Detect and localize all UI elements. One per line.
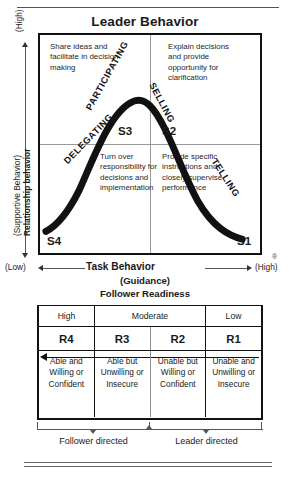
top-divider-rule — [17, 7, 279, 8]
brace-tick-middle-icon — [146, 425, 152, 429]
x-axis-low-label: (Low) — [5, 262, 26, 272]
brace-tick-follower-icon — [90, 430, 96, 434]
page-title: Leader Behavior — [0, 14, 290, 29]
x-axis-row: (Low) Task Behavior (High) — [0, 261, 290, 275]
registered-trademark-mark: ® — [272, 253, 277, 260]
readiness-code-r1: R1 — [206, 327, 261, 350]
y-axis-label-relationship: Relationship behavior — [22, 149, 32, 237]
x-axis-left-line — [43, 268, 85, 269]
quadrant-label-s2: S2 — [162, 125, 176, 137]
bell-curve-icon — [40, 35, 260, 253]
readiness-description-row: Able and Willing or Confident Able but U… — [39, 351, 261, 417]
x-axis-right-line — [205, 268, 247, 269]
x-axis-right-arrow-icon — [247, 265, 252, 271]
readiness-header-low: Low — [206, 306, 261, 326]
brace-tick-leader-icon — [203, 430, 209, 434]
readiness-code-r4: R4 — [39, 327, 95, 350]
y-axis-high-label: (High) — [14, 9, 24, 32]
bottom-divider-rule-2 — [24, 466, 272, 467]
quadrant-label-s1: S1 — [237, 235, 251, 247]
follower-readiness-title: Follower Readiness — [0, 288, 290, 299]
x-axis-title: Task Behavior — [86, 261, 155, 272]
y-axis-label-supportive: (Supportive Behavior) — [12, 155, 22, 236]
x-axis-subtitle-guidance: (Guidance) — [0, 275, 290, 286]
footer-leader-directed: Leader directed — [150, 436, 263, 448]
readiness-code-row: R4 R3 R2 R1 — [39, 327, 261, 351]
readiness-desc-r1: Unable and Unwilling or Insecure — [206, 351, 261, 417]
bottom-divider-rule-1 — [24, 462, 272, 463]
situational-leadership-figure: Leader Behavior (High) (Supportive Behav… — [0, 0, 290, 478]
y-axis-down-arrow-icon — [22, 253, 28, 258]
readiness-code-r2: R2 — [151, 327, 207, 350]
readiness-table: High Moderate Low R4 R3 R2 R1 Able and W… — [37, 305, 263, 420]
quadrant-label-s4: S4 — [47, 235, 61, 247]
readiness-desc-r4: Able and Willing or Confident — [39, 351, 95, 417]
x-axis-high-label: (High) — [255, 262, 278, 272]
footer-follower-directed: Follower directed — [37, 436, 150, 448]
brace-line — [37, 429, 263, 430]
readiness-desc-r2: Unable but Willing or Confident — [151, 351, 207, 417]
readiness-header-row: High Moderate Low — [39, 306, 261, 327]
readiness-header-high: High — [39, 306, 95, 326]
readiness-header-moderate: Moderate — [95, 306, 206, 326]
direction-brace — [37, 422, 263, 434]
readiness-desc-r3: Able but Unwilling or Insecure — [95, 351, 151, 417]
leader-behavior-matrix: Share ideas and facilitate in decision m… — [38, 33, 262, 255]
readiness-code-r3: R3 — [95, 327, 151, 350]
quadrant-label-s3: S3 — [118, 125, 132, 137]
